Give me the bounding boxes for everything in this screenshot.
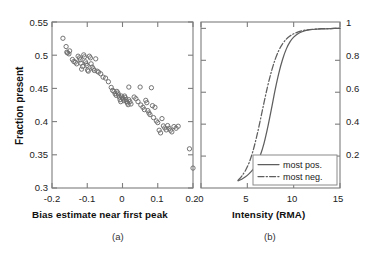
- scatter-point: [106, 80, 110, 84]
- panel-b-plot: most pos.most neg.: [201, 22, 340, 188]
- panel-b-caption: (b): [264, 231, 276, 242]
- panel-a-ytick-4: 0.35: [16, 149, 48, 160]
- panel-a-ytick-2: 0.45: [16, 83, 48, 94]
- panel-a-ytick-1: 0.5: [16, 50, 48, 61]
- panel-b-ytick-0: 1: [346, 17, 351, 28]
- scatter-point: [138, 85, 142, 89]
- panel-b-xlabel: Intensity (RMA): [232, 209, 305, 220]
- panel-a-scatter-series: [61, 36, 195, 170]
- panel-b-ytick-3: 0.4: [346, 116, 359, 127]
- scatter-point: [187, 147, 191, 151]
- panel-b-ytick-1: 0.8: [346, 50, 359, 61]
- panel-b-xtick-3: 15: [325, 193, 351, 204]
- scatter-point: [127, 85, 131, 89]
- scatter-point: [149, 86, 153, 90]
- panel-a-xtick-1: -0.1: [73, 193, 101, 204]
- panel-a-ytick-5: 0.3: [16, 182, 48, 193]
- panel-a-ytick-0: 0.55: [16, 17, 48, 28]
- panel-b-xtick-2: 10: [279, 193, 305, 204]
- panel-a-ytick-3: 0.4: [16, 116, 48, 127]
- panel-a-xlabel: Bias estimate near first peak: [32, 209, 168, 220]
- panel-a-xtick-0: -0.2: [38, 193, 66, 204]
- panel-a-ylabel: Fraction present: [14, 67, 25, 145]
- panel-a-xtick-3: 0.1: [143, 193, 171, 204]
- legend-label-2: most neg.: [283, 172, 323, 182]
- scatter-point: [61, 36, 65, 40]
- panel-a-caption: (a): [112, 231, 124, 242]
- panel-a-frame: [52, 22, 193, 188]
- legend-label-1: most pos.: [283, 160, 322, 170]
- scatter-point: [64, 44, 68, 48]
- panel-a-plot: [52, 22, 193, 188]
- scatter-point: [94, 57, 98, 61]
- scatter-point: [160, 116, 164, 120]
- panel-b-svg: most pos.most neg.: [201, 22, 340, 188]
- figure-root: Fraction present 0.55 0.5 0.45 0.4 0.35 …: [0, 0, 376, 253]
- panel-b-ytick-4: 0.2: [346, 149, 359, 160]
- panel-b-legend: most pos.most neg.: [253, 155, 337, 185]
- scatter-point: [79, 67, 83, 71]
- panel-b-xtick-1: 5: [233, 193, 259, 204]
- panel-a-svg: [52, 22, 193, 188]
- panel-b-xtick-0: 0: [188, 193, 214, 204]
- panel-a-xtick-2: 0: [108, 193, 136, 204]
- panel-b-ytick-2: 0.6: [346, 83, 359, 94]
